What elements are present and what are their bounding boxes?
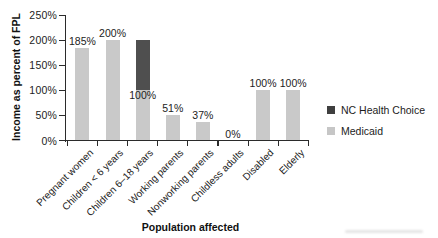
legend-item: Medicaid	[327, 124, 425, 138]
bar-value-label: 37%	[181, 109, 225, 121]
legend-label: NC Health Choice	[341, 104, 425, 116]
bar-segment-medicaid	[75, 48, 89, 141]
x-category-label: Elderly	[277, 147, 306, 176]
x-tick	[248, 141, 249, 146]
x-tick	[187, 141, 188, 146]
x-tick	[308, 141, 309, 146]
bar-value-label: 100%	[121, 89, 165, 101]
y-tick	[59, 115, 66, 116]
bar-segment-medicaid	[196, 122, 210, 141]
x-category-label: Disabled	[241, 147, 276, 182]
bar-value-label: 0%	[211, 128, 255, 140]
legend-swatch-icon	[327, 127, 335, 135]
y-tick	[59, 65, 66, 66]
x-tick	[217, 141, 218, 146]
legend-label: Medicaid	[341, 125, 383, 137]
y-tick-label: 50%	[19, 109, 57, 121]
bar-value-label: 200%	[91, 27, 135, 39]
scan-artifact	[345, 230, 423, 233]
bar-value-label: 100%	[271, 77, 315, 89]
y-tick-label: 150%	[19, 59, 57, 71]
x-axis-title: Population affected	[118, 221, 263, 233]
y-tick	[59, 15, 66, 16]
bar-segment-medicaid	[256, 90, 270, 140]
x-category-label: Childless adults	[188, 147, 245, 204]
y-tick	[59, 140, 66, 141]
legend-item: NC Health Choice	[327, 103, 425, 117]
y-tick	[59, 90, 66, 91]
legend: NC Health ChoiceMedicaid	[327, 103, 425, 145]
y-tick-label: 100%	[19, 84, 57, 96]
bar-segment-medicaid	[106, 40, 120, 140]
y-tick-label: 250%	[19, 9, 57, 21]
bar-segment-medicaid	[286, 90, 300, 140]
x-tick	[127, 141, 128, 146]
bar-chart-figure: Income as percent of FPL 0%50%100%150%20…	[0, 0, 438, 238]
x-tick	[278, 141, 279, 146]
legend-swatch-icon	[327, 106, 335, 114]
y-tick-label: 200%	[19, 34, 57, 46]
x-tick	[97, 141, 98, 146]
bar-segment-medicaid	[166, 115, 180, 141]
x-tick	[67, 141, 68, 146]
y-tick-label: 0%	[19, 135, 57, 147]
bar-segment-nc-health-choice	[136, 40, 150, 90]
x-tick	[157, 141, 158, 146]
